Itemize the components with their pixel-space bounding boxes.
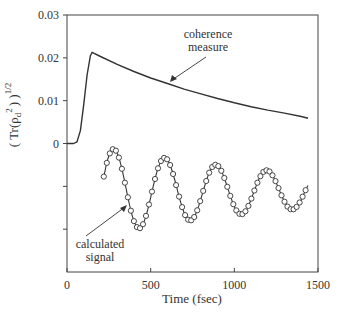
signal-marker [243,209,248,214]
signal-marker [297,200,302,205]
signal-marker [303,188,308,193]
x-axis-label: Time (fsec) [162,291,222,306]
signal-marker [165,157,170,162]
signal-marker [122,180,127,185]
signal-marker [228,193,233,198]
arrow-line [86,207,125,236]
y-tick-label: 0.03 [38,8,59,22]
signal-marker [270,173,275,178]
signal-marker [104,160,109,165]
y-tick-label: 0 [53,137,59,151]
x-tick-label: 0 [64,278,70,292]
signal-marker [246,203,251,208]
arrowhead-icon [120,205,127,212]
signal-marker [219,168,224,173]
annotations: coherencemeasurecalculatedsignal [76,27,233,264]
signal-marker [198,199,203,204]
signal-marker [155,166,160,171]
signal-marker [125,195,130,200]
signal-marker [249,196,254,201]
x-tick-label: 1500 [306,278,330,292]
arrowhead-icon [170,75,177,82]
signal-marker [207,170,212,175]
coherence-curve [67,52,308,143]
y-tick-label: 0.01 [38,94,59,108]
signal-marker [152,176,157,181]
x-tick-label: 500 [142,278,160,292]
signal-marker [180,205,185,210]
signal-marker [231,202,236,207]
signal-marker [128,208,133,213]
signal-marker [174,183,179,188]
svg-text:( Tr(ρd2) )1/2: ( Tr(ρd2) )1/2 [3,83,23,147]
chart: 0500100015000.030.020.010 coherencemeasu… [0,0,338,314]
signal-marker [279,193,284,198]
signal-marker [195,208,200,213]
signal-marker [101,174,106,179]
arrow-line [172,57,206,80]
signal-marker [201,188,206,193]
annotation-coherence-measure: coherencemeasure [184,27,233,54]
signal-marker [204,178,209,183]
signal-marker [116,155,121,160]
x-tick-label: 1000 [222,278,246,292]
signal-marker [276,186,281,191]
signal-marker [149,189,154,194]
coherence-measure-line [67,52,308,143]
signal-marker [282,199,287,204]
annotation-calculated-signal: calculatedsignal [76,237,125,264]
y-tick-label: 0.02 [38,51,59,65]
calculated-signal-line [101,147,308,231]
signal-marker [143,213,148,218]
signal-marker [146,202,151,207]
signal-marker [300,194,305,199]
y-axis-label: ( Tr(ρd2) )1/2 [3,83,23,147]
signal-marker [113,148,118,153]
signal-marker [119,166,124,171]
signal-marker [252,188,257,193]
signal-marker [222,175,227,180]
signal-marker [131,219,136,224]
signal-marker [225,184,230,189]
signal-marker [192,214,197,219]
signal-marker [140,222,145,227]
signal-marker [168,162,173,167]
signal-marker [255,180,260,185]
signal-marker [177,194,182,199]
signal-marker [273,179,278,184]
signal-marker [216,164,221,169]
signal-marker [171,171,176,176]
